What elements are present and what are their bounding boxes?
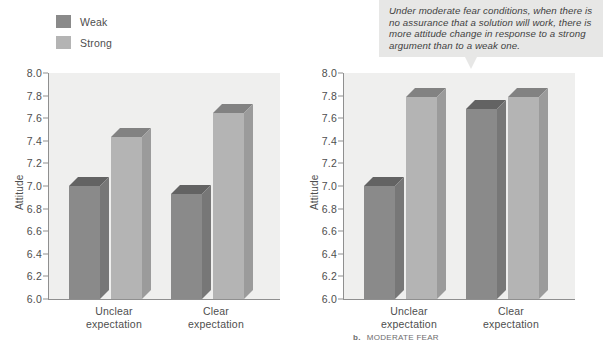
y-axis-ticks-left: 8.07.87.67.47.27.06.86.66.46.26.0 — [14, 0, 48, 341]
y-tick-label: 6.2 — [12, 270, 42, 282]
y-tick-label: 7.2 — [12, 157, 42, 169]
bar-weak-1 — [171, 194, 202, 299]
y-tick-label: 6.4 — [307, 248, 337, 260]
footnote-left — [14, 333, 20, 341]
bar-face — [111, 137, 142, 299]
y-tick-label: 8.0 — [12, 67, 42, 79]
bar-side — [142, 128, 151, 299]
bar-side — [100, 177, 109, 299]
bar-strong-1 — [508, 97, 539, 299]
x-label-line-2: expectation — [66, 318, 162, 331]
footnote-marker-right: b. — [353, 333, 361, 341]
x-label-line-1: Clear — [168, 305, 264, 318]
y-tick-label: 7.0 — [12, 180, 42, 192]
y-tick-label: 6.2 — [307, 270, 337, 282]
legend-label-strong: Strong — [80, 37, 112, 49]
x-axis-line-left — [48, 299, 280, 300]
legend-swatch-weak — [56, 15, 71, 28]
x-label-line-2: expectation — [463, 318, 559, 331]
right-chart-panel: Under moderate fear conditions, when the… — [295, 0, 591, 341]
y-tick-label: 6.4 — [12, 248, 42, 260]
callout-pointer — [463, 53, 479, 69]
bar-face — [171, 194, 202, 299]
plot-area-right — [344, 73, 575, 299]
bar-side — [244, 104, 253, 299]
legend-item-strong: Strong — [56, 34, 112, 51]
y-tick-label: 7.8 — [12, 90, 42, 102]
x-label-unclear-left: Unclear expectation — [66, 305, 162, 330]
legend-label-weak: Weak — [80, 16, 107, 28]
bar-face — [69, 186, 100, 299]
bar-side — [539, 88, 548, 299]
x-label-clear-right: Clear expectation — [463, 305, 559, 330]
y-tick-label: 6.8 — [12, 203, 42, 215]
x-axis-line-right — [343, 299, 575, 300]
y-tick-label: 6.8 — [307, 203, 337, 215]
left-chart-panel: Weak Strong Attitude 8.07.87.67.47.27.06… — [0, 0, 296, 341]
y-tick-label: 7.6 — [307, 112, 337, 124]
y-tick-label: 8.0 — [307, 67, 337, 79]
legend-item-weak: Weak — [56, 13, 112, 30]
y-tick-label: 7.0 — [307, 180, 337, 192]
bar-side — [202, 185, 211, 299]
x-label-line-1: Unclear — [361, 305, 457, 318]
y-tick-label: 7.8 — [307, 90, 337, 102]
bar-face — [364, 186, 395, 299]
bar-side — [497, 100, 506, 299]
y-tick-label: 7.4 — [12, 135, 42, 147]
bar-weak-0 — [69, 186, 100, 299]
bar-weak-0 — [364, 186, 395, 299]
y-axis-ticks-right: 8.07.87.67.47.27.06.86.66.46.26.0 — [309, 0, 343, 341]
bar-strong-0 — [111, 137, 142, 299]
x-label-line-2: expectation — [168, 318, 264, 331]
callout-text: Under moderate fear conditions, when the… — [389, 5, 592, 51]
bar-face — [466, 109, 497, 299]
bar-weak-1 — [466, 109, 497, 299]
y-tick-label: 7.4 — [307, 135, 337, 147]
y-tick-label: 6.0 — [12, 293, 42, 305]
y-tick-label: 6.6 — [307, 225, 337, 237]
bar-side — [437, 88, 446, 299]
y-tick-label: 6.0 — [307, 293, 337, 305]
legend-swatch-strong — [56, 36, 71, 49]
bar-face — [406, 97, 437, 299]
bar-face — [508, 97, 539, 299]
x-label-line-1: Unclear — [66, 305, 162, 318]
chart-legend: Weak Strong — [56, 13, 112, 55]
bar-strong-0 — [406, 97, 437, 299]
x-label-line-1: Clear — [463, 305, 559, 318]
x-label-line-2: expectation — [361, 318, 457, 331]
footnote-right: b.MODERATE FEAR — [353, 333, 439, 341]
bar-side — [395, 177, 404, 299]
footnote-text-right: MODERATE FEAR — [367, 333, 439, 341]
y-tick-label: 7.2 — [307, 157, 337, 169]
x-label-unclear-right: Unclear expectation — [361, 305, 457, 330]
callout-box: Under moderate fear conditions, when the… — [379, 0, 603, 57]
bar-strong-1 — [213, 113, 244, 299]
y-tick-label: 7.6 — [12, 112, 42, 124]
bar-face — [213, 113, 244, 299]
y-tick-label: 6.6 — [12, 225, 42, 237]
x-label-clear-left: Clear expectation — [168, 305, 264, 330]
plot-area-left — [49, 73, 280, 299]
